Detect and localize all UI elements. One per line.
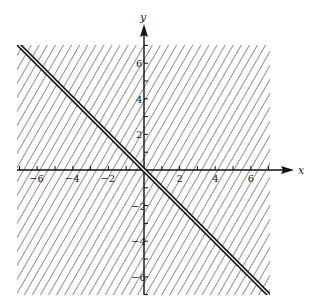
y-tick-label: 4 <box>136 94 142 105</box>
x-tick-label: −6 <box>29 173 44 184</box>
x-axis-label: x <box>298 164 305 177</box>
x-tick-label: 2 <box>177 173 183 184</box>
x-tick-label: 6 <box>248 173 254 184</box>
x-tick-label: 4 <box>212 173 218 184</box>
y-tick-label: −6 <box>131 272 146 283</box>
graph-figure: −6−4−2246−6−4−2246 x y <box>0 0 309 304</box>
x-tick-label: −2 <box>100 173 115 184</box>
y-tick-label: −2 <box>131 201 146 212</box>
y-tick-label: −4 <box>131 236 146 247</box>
x-tick-label: −4 <box>65 173 80 184</box>
y-tick-label: 6 <box>136 58 142 69</box>
y-axis-label: y <box>139 11 147 24</box>
y-tick-label: 2 <box>136 129 142 140</box>
